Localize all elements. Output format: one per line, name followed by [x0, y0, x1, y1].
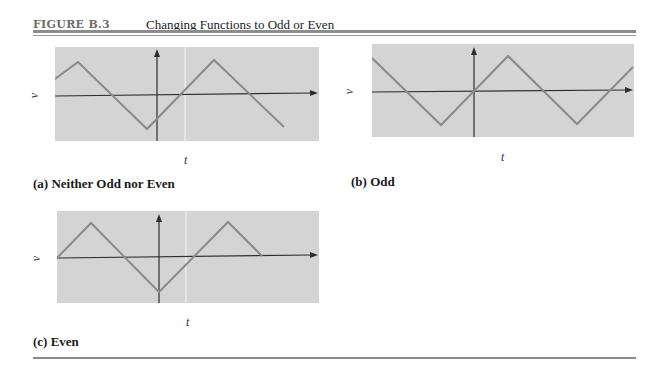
top-rule-thin	[33, 35, 636, 36]
bottom-rule	[33, 357, 636, 359]
caption-a: (a) Neither Odd nor Even	[33, 176, 175, 192]
xlabel-a: t	[184, 153, 187, 168]
plot-a-canvas	[55, 47, 319, 141]
caption-b: (b) Odd	[351, 174, 395, 190]
plot-c	[57, 211, 319, 303]
ylabel-b: v	[342, 89, 357, 94]
caption-c: (c) Even	[33, 334, 79, 350]
xlabel-c: t	[186, 315, 189, 330]
plot-b	[372, 44, 634, 137]
ylabel-a: v	[27, 93, 42, 98]
plot-a	[55, 47, 319, 141]
top-rule-thick	[33, 30, 636, 33]
plot-b-canvas	[372, 44, 634, 137]
ylabel-c: v	[29, 256, 44, 261]
xlabel-b: t	[501, 150, 504, 165]
plot-c-canvas	[57, 211, 319, 303]
